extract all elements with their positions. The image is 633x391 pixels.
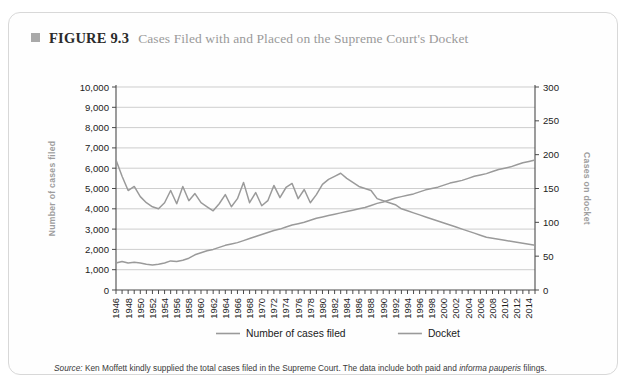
source-text-after: filings. <box>521 363 547 373</box>
svg-text:Docket: Docket <box>428 328 460 339</box>
y-axis-left-label: Number of cases filed <box>47 141 57 237</box>
svg-text:2,000: 2,000 <box>85 244 109 255</box>
svg-text:150: 150 <box>543 183 559 194</box>
svg-text:1988: 1988 <box>366 298 376 319</box>
svg-text:5,000: 5,000 <box>85 183 109 194</box>
svg-text:1990: 1990 <box>379 298 389 319</box>
svg-text:2002: 2002 <box>451 298 461 319</box>
svg-text:8,000: 8,000 <box>85 122 109 133</box>
svg-text:2006: 2006 <box>476 298 486 319</box>
svg-text:1,000: 1,000 <box>85 264 109 275</box>
svg-text:2004: 2004 <box>464 298 474 319</box>
figure-panel: FIGURE 9.3 Cases Filed with and Placed o… <box>8 12 618 375</box>
svg-text:1962: 1962 <box>209 298 219 319</box>
source-text-before: Ken Moffett kindly supplied the total ca… <box>83 363 460 373</box>
svg-text:7,000: 7,000 <box>85 142 109 153</box>
figure-title: Cases Filed with and Placed on the Supre… <box>138 31 468 47</box>
figure-header: FIGURE 9.3 Cases Filed with and Placed o… <box>31 30 468 47</box>
svg-text:1998: 1998 <box>427 298 437 319</box>
svg-text:2010: 2010 <box>500 298 510 319</box>
svg-text:9,000: 9,000 <box>85 102 109 113</box>
svg-text:250: 250 <box>543 115 559 126</box>
gridlines <box>116 87 535 270</box>
svg-text:1974: 1974 <box>281 298 291 319</box>
svg-text:100: 100 <box>543 217 559 228</box>
svg-text:300: 300 <box>543 82 559 93</box>
svg-text:1984: 1984 <box>342 298 352 319</box>
svg-text:1968: 1968 <box>245 298 255 319</box>
y-axis-right-label: Cases on docket <box>582 152 592 225</box>
svg-text:1976: 1976 <box>294 298 304 319</box>
svg-text:10,000: 10,000 <box>80 82 109 93</box>
source-italic-phrase: informa pauperis <box>459 363 521 373</box>
svg-text:1982: 1982 <box>330 298 340 319</box>
source-label: Source: <box>54 363 83 373</box>
svg-text:Number of cases filed: Number of cases filed <box>246 328 346 339</box>
svg-text:1966: 1966 <box>233 298 243 319</box>
figure-number: FIGURE 9.3 <box>49 30 129 47</box>
chart-legend: Number of cases filedDocket <box>216 328 460 339</box>
svg-text:1986: 1986 <box>354 298 364 319</box>
x-axis-ticks: 1946194819501952195419561958196019621964… <box>111 290 535 319</box>
svg-text:3,000: 3,000 <box>85 224 109 235</box>
svg-text:50: 50 <box>543 251 554 262</box>
svg-text:1946: 1946 <box>111 298 121 319</box>
svg-text:1972: 1972 <box>269 298 279 319</box>
svg-text:2012: 2012 <box>512 298 522 319</box>
svg-text:1996: 1996 <box>415 298 425 319</box>
y-axis-right-ticks: 050100150200250300 <box>535 82 559 296</box>
y-axis-left-ticks: 01,0002,0003,0004,0005,0006,0007,0008,00… <box>80 82 116 296</box>
svg-text:6,000: 6,000 <box>85 163 109 174</box>
square-marker-icon <box>31 33 40 42</box>
svg-text:2014: 2014 <box>524 298 534 319</box>
svg-text:1954: 1954 <box>160 298 170 319</box>
svg-text:1950: 1950 <box>136 298 146 319</box>
svg-text:1956: 1956 <box>172 298 182 319</box>
svg-text:1994: 1994 <box>403 298 413 319</box>
svg-text:1958: 1958 <box>184 298 194 319</box>
source-note: Source: Ken Moffett kindly supplied the … <box>54 363 599 374</box>
svg-text:0: 0 <box>104 285 109 296</box>
svg-text:1948: 1948 <box>124 298 134 319</box>
svg-text:4,000: 4,000 <box>85 203 109 214</box>
svg-text:1980: 1980 <box>318 298 328 319</box>
svg-text:1978: 1978 <box>306 298 316 319</box>
chart-container: 01,0002,0003,0004,0005,0006,0007,0008,00… <box>9 59 619 359</box>
svg-text:1952: 1952 <box>148 298 158 319</box>
svg-text:2000: 2000 <box>439 298 449 319</box>
line-chart: 01,0002,0003,0004,0005,0006,0007,0008,00… <box>9 59 619 359</box>
svg-text:1960: 1960 <box>196 298 206 319</box>
svg-text:1992: 1992 <box>391 298 401 319</box>
svg-text:200: 200 <box>543 149 559 160</box>
series-line-cases-filed <box>116 160 535 245</box>
svg-text:2008: 2008 <box>488 298 498 319</box>
svg-text:1970: 1970 <box>257 298 267 319</box>
svg-text:1964: 1964 <box>221 298 231 319</box>
svg-text:0: 0 <box>543 285 548 296</box>
